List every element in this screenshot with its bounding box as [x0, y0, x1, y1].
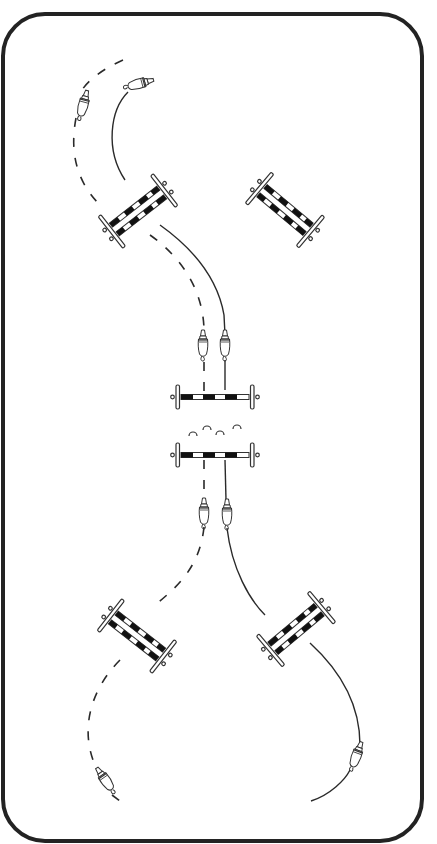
arena-border — [3, 14, 422, 841]
arena-diagram — [0, 0, 437, 844]
